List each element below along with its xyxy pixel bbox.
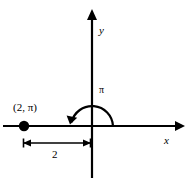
y-axis-label: y — [99, 25, 104, 36]
y-axis — [87, 9, 97, 178]
angle-label: π — [99, 85, 104, 95]
point-coordinate-label: (2, π) — [13, 102, 37, 113]
plotted-point-marker — [19, 121, 29, 131]
polar-coordinate-diagram: y x π (2, π) 2 — [0, 0, 190, 182]
y-axis-arrowhead-icon — [87, 9, 97, 20]
dimension-line — [23, 139, 91, 148]
x-axis-label: x — [164, 135, 169, 146]
dimension-label: 2 — [52, 149, 58, 160]
angle-arc — [67, 106, 113, 126]
x-axis-arrowhead-icon — [175, 121, 185, 131]
angle-arc-arrowhead-icon — [67, 116, 78, 125]
diagram-canvas — [0, 0, 190, 182]
x-axis — [3, 121, 185, 131]
